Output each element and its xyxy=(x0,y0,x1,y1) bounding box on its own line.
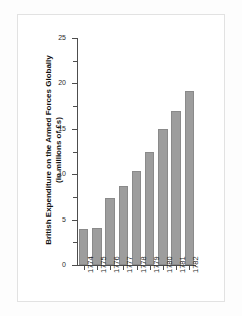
x-axis-tick-label: 1775 xyxy=(100,256,108,273)
x-axis-tick-label: 1780 xyxy=(166,256,174,273)
bar-1780[interactable] xyxy=(158,129,168,265)
x-axis-tick-label: 1777 xyxy=(126,256,134,273)
y-axis-tick xyxy=(72,265,77,266)
y-axis-title-line2: (in millions of £s) xyxy=(54,35,64,265)
y-axis-tick-label: 0 xyxy=(62,261,66,268)
figure-canvas: British Expenditure on the Armed Forces … xyxy=(0,0,242,316)
y-axis-tick xyxy=(72,220,77,221)
y-axis-tick-label: 5 xyxy=(62,216,66,223)
y-axis-line xyxy=(77,38,78,266)
x-axis-tick xyxy=(84,266,85,270)
x-axis-tick-label: 1774 xyxy=(87,256,95,273)
y-axis-title: British Expenditure on the Armed Forces … xyxy=(44,35,64,265)
x-axis-tick xyxy=(150,266,151,270)
bar-1779[interactable] xyxy=(145,152,155,266)
x-axis-tick-label: 1776 xyxy=(113,256,121,273)
x-axis-tick xyxy=(163,266,164,270)
bar-1781[interactable] xyxy=(171,111,181,265)
x-axis-tick-label: 1778 xyxy=(140,256,148,273)
y-axis-title-line1: British Expenditure on the Armed Forces … xyxy=(44,55,53,245)
bar-chart-plot: British Expenditure on the Armed Forces … xyxy=(0,0,242,316)
y-axis-tick-label: 10 xyxy=(58,170,66,177)
y-axis-tick xyxy=(72,38,77,39)
x-axis-tick xyxy=(97,266,98,270)
x-axis-tick-label: 1781 xyxy=(179,256,187,273)
bar-1782[interactable] xyxy=(185,91,195,265)
bar-1777[interactable] xyxy=(119,186,129,265)
y-axis-minor-tick xyxy=(73,61,77,62)
x-axis-tick xyxy=(137,266,138,270)
y-axis-minor-tick xyxy=(73,242,77,243)
x-axis-tick-label: 1779 xyxy=(153,256,161,273)
y-axis-tick-label: 20 xyxy=(58,79,66,86)
y-axis-tick xyxy=(72,129,77,130)
x-axis-tick xyxy=(110,266,111,270)
y-axis-minor-tick xyxy=(73,106,77,107)
bar-1778[interactable] xyxy=(132,171,142,265)
y-axis-minor-tick xyxy=(73,197,77,198)
y-axis-minor-tick xyxy=(73,152,77,153)
bar-1776[interactable] xyxy=(105,198,115,265)
x-axis-tick xyxy=(176,266,177,270)
y-axis-tick xyxy=(72,174,77,175)
y-axis-tick-label: 25 xyxy=(58,34,66,41)
x-axis-tick-label: 1782 xyxy=(192,256,200,273)
y-axis-tick-label: 15 xyxy=(58,125,66,132)
y-axis-tick xyxy=(72,83,77,84)
